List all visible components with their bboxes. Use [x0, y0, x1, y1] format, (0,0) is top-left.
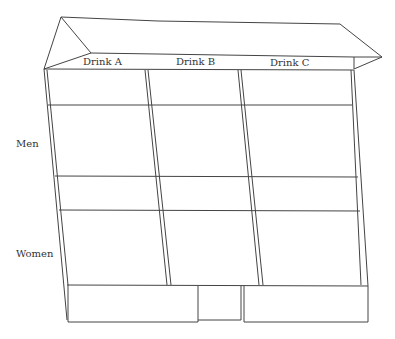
header-band [44, 69, 354, 70]
box-diagram: Drink A Drink B Drink C Men Women [0, 0, 395, 339]
front-panel [68, 285, 368, 322]
column-label-drink-a: Drink A [83, 56, 123, 67]
column-label-drink-c: Drink C [270, 57, 310, 68]
left-wall [44, 69, 68, 320]
right-wall [351, 70, 368, 286]
row-label-men: Men [16, 138, 39, 149]
divider-ab [145, 70, 171, 285]
row-label-women: Women [16, 248, 54, 259]
column-label-drink-b: Drink B [176, 56, 215, 67]
divider-bc [238, 70, 263, 285]
shelf-lines [48, 105, 368, 286]
